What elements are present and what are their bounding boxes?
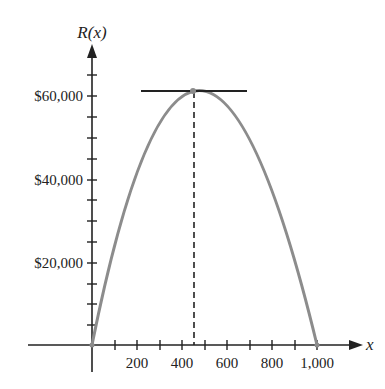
y-tick-label-60000: $60,000 xyxy=(34,88,83,104)
y-axis-label: R(x) xyxy=(76,23,107,42)
revenue-chart: R(x) x $60,000 $40,000 $20,000 200 400 6… xyxy=(0,0,385,389)
vertex-point xyxy=(190,88,196,94)
x-tick-label-600: 600 xyxy=(216,355,239,371)
x-tick-label-1000: 1,000 xyxy=(300,355,334,371)
x-tick-label-800: 800 xyxy=(261,355,284,371)
y-axis-arrow-icon xyxy=(87,44,97,58)
revenue-curve xyxy=(92,91,317,346)
x-axis-arrow-icon xyxy=(349,340,363,350)
x-axis-label: x xyxy=(365,335,374,354)
y-tick-label-40000: $40,000 xyxy=(34,172,83,188)
root-point xyxy=(315,343,320,348)
x-tick-label-400: 400 xyxy=(171,355,194,371)
x-tick-label-200: 200 xyxy=(126,355,149,371)
origin-point xyxy=(90,343,95,348)
y-tick-label-20000: $20,000 xyxy=(34,255,83,271)
